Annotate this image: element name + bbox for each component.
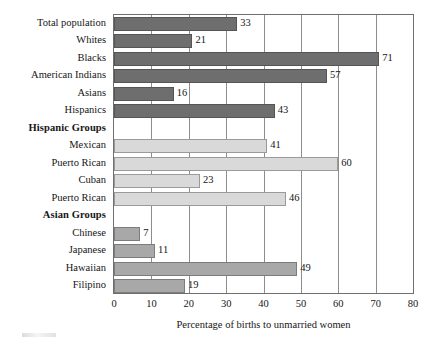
caption-artifact [22, 333, 56, 337]
category-label: Chinese [0, 228, 106, 239]
bar-value-label: 57 [330, 70, 341, 81]
x-tick-label: 60 [333, 299, 344, 310]
category-label: Cuban [0, 175, 106, 186]
bar-value-label: 16 [177, 88, 188, 99]
x-tick-label: 20 [184, 299, 195, 310]
category-label: American Indians [0, 70, 106, 81]
category-label: Japanese [0, 245, 106, 256]
bar [114, 227, 140, 241]
category-label: Filipino [0, 280, 106, 291]
bar-value-label: 23 [203, 175, 214, 186]
bar [114, 157, 338, 171]
bar [114, 192, 286, 206]
x-tick-label: 10 [146, 299, 157, 310]
category-label: Puerto Rican [0, 193, 106, 204]
category-label: Puerto Rican [0, 158, 106, 169]
bar-value-label: 41 [270, 140, 281, 151]
category-label: Blacks [0, 53, 106, 64]
bar-value-label: 43 [278, 105, 289, 116]
category-label: Total population [0, 18, 106, 29]
x-tick-label: 40 [258, 299, 269, 310]
bar [114, 139, 267, 153]
bar [114, 104, 275, 118]
bar [114, 69, 327, 83]
category-label: Hispanics [0, 105, 106, 116]
bar-value-label: 7 [143, 228, 148, 239]
bar-value-label: 11 [158, 245, 168, 256]
bar [114, 17, 237, 31]
x-tick-label: 80 [408, 299, 419, 310]
category-label-column: Total populationWhitesBlacksAmerican Ind… [0, 14, 110, 294]
bar-value-label: 46 [289, 193, 300, 204]
bar-value-label: 60 [341, 158, 352, 169]
category-label: Hispanic Groups [0, 123, 106, 134]
bar-value-label: 33 [240, 18, 251, 29]
category-label: Asians [0, 88, 106, 99]
bar [114, 244, 155, 258]
x-tick-label: 0 [111, 299, 116, 310]
bar [114, 174, 200, 188]
bar-chart-figure: Total populationWhitesBlacksAmerican Ind… [0, 0, 442, 345]
bar [114, 52, 379, 66]
bar-value-label: 71 [382, 53, 393, 64]
category-label: Mexican [0, 140, 106, 151]
x-tick-label: 30 [221, 299, 232, 310]
x-axis-title: Percentage of births to unmarried women [113, 320, 414, 331]
bar-value-label: 49 [300, 263, 311, 274]
bar [114, 262, 297, 276]
category-label: Hawaiian [0, 263, 106, 274]
bar [114, 87, 174, 101]
category-label: Asian Groups [0, 210, 106, 221]
bar-value-label: 19 [188, 280, 199, 291]
x-tick-label: 50 [296, 299, 307, 310]
x-tick-label: 70 [370, 299, 381, 310]
bar-value-label: 21 [195, 35, 206, 46]
bar [114, 34, 192, 48]
bar [114, 279, 185, 293]
category-label: Whites [0, 35, 106, 46]
